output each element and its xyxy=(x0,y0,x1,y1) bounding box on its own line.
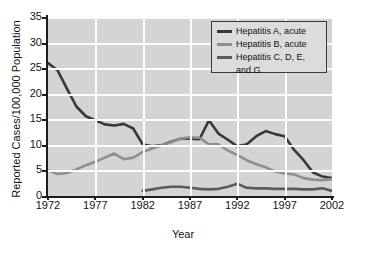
y-tick-30: 30 xyxy=(20,37,42,48)
legend-item-hepatitis-a: Hepatitis A, acute xyxy=(217,26,321,38)
y-tick-15: 15 xyxy=(20,113,42,124)
x-tick-1997: 1997 xyxy=(265,199,305,211)
x-tick-1992: 1992 xyxy=(217,199,257,211)
y-tickmark-25 xyxy=(42,68,47,70)
legend-swatch-hepatitis-b xyxy=(217,43,232,46)
y-tick-20: 20 xyxy=(20,88,42,99)
legend-item-hepatitis-cdeg: Hepatitis C, D, E, xyxy=(217,52,321,64)
legend-label-hepatitis-cdeg: Hepatitis C, D, E, xyxy=(236,52,305,63)
gridline-x-1987 xyxy=(190,17,192,196)
y-tickmark-15 xyxy=(42,119,47,121)
y-tick-35: 35 xyxy=(20,11,42,22)
hepatitis-incidence-line-chart: 35 30 25 20 15 10 5 0 1972 1977 1982 198… xyxy=(0,0,366,261)
gridline-x-1977 xyxy=(95,17,97,196)
x-axis-title: Year xyxy=(0,228,366,240)
y-tick-5: 5 xyxy=(20,164,42,175)
legend-item-hepatitis-b: Hepatitis B, acute xyxy=(217,39,321,51)
y-axis-title: Reported Cases/100,000 Population xyxy=(10,9,22,209)
legend-swatch-hepatitis-a xyxy=(217,30,232,33)
y-tick-10: 10 xyxy=(20,139,42,150)
gridline-x-1982 xyxy=(143,17,145,196)
x-tick-1977: 1977 xyxy=(75,199,115,211)
y-tickmark-5 xyxy=(42,170,47,172)
legend-swatch-hepatitis-cdeg xyxy=(217,56,232,59)
x-tick-2002: 2002 xyxy=(312,199,352,211)
y-tickmark-35 xyxy=(42,17,47,19)
legend: Hepatitis A, acute Hepatitis B, acute He… xyxy=(211,21,327,73)
legend-label-hepatitis-a: Hepatitis A, acute xyxy=(236,26,306,37)
legend-label-hepatitis-cdeg-line2: and G xyxy=(236,65,321,76)
y-tickmark-30 xyxy=(42,43,47,45)
x-tick-1987: 1987 xyxy=(170,199,210,211)
legend-label-hepatitis-b: Hepatitis B, acute xyxy=(236,39,307,50)
y-tickmark-10 xyxy=(42,145,47,147)
x-tick-1982: 1982 xyxy=(123,199,163,211)
y-tickmark-20 xyxy=(42,94,47,96)
y-tick-25: 25 xyxy=(20,62,42,73)
x-tick-1972: 1972 xyxy=(28,199,68,211)
